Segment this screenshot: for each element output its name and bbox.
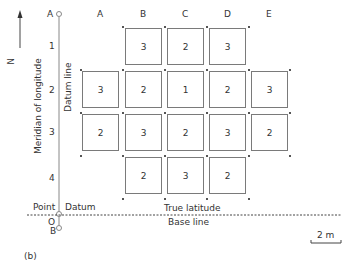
quadrat-e2: 3 — [251, 71, 288, 108]
row-header-3: 3 — [49, 128, 55, 137]
quadrat-b1: 3 — [125, 28, 162, 65]
quadrat-d4: 2 — [209, 157, 246, 194]
point-b-label: B — [50, 227, 56, 236]
datum-line-label: Datum line — [64, 62, 73, 112]
quadrat-d2: 2 — [209, 71, 246, 108]
quadrat-c2: 1 — [167, 71, 204, 108]
quadrat-a3: 2 — [82, 114, 119, 151]
quadrat-c1: 2 — [167, 28, 204, 65]
base-line-label: Base line — [168, 218, 209, 227]
column-header-c: C — [182, 10, 188, 19]
scale-bar-label: 2 m — [317, 231, 334, 240]
column-header-a: A — [97, 10, 103, 19]
true-latitude-label: True latitude — [164, 204, 221, 213]
quadrat-c4: 3 — [167, 157, 204, 194]
quadrat-d1: 3 — [209, 28, 246, 65]
meridian-label: Meridian of longitude — [34, 58, 43, 154]
quadrat-d3: 3 — [209, 114, 246, 151]
quadrat-c3: 2 — [167, 114, 204, 151]
point-label: Point — [33, 203, 55, 212]
column-header-d: D — [224, 10, 231, 19]
figure-caption: (b) — [24, 252, 37, 261]
quadrat-a2: 3 — [82, 71, 119, 108]
column-header-b: B — [140, 10, 146, 19]
point-a-label: A — [47, 10, 53, 19]
column-header-e: E — [266, 10, 272, 19]
row-header-4: 4 — [49, 174, 55, 183]
quadrat-b4: 2 — [125, 157, 162, 194]
quadrat-b3: 3 — [125, 114, 162, 151]
quadrat-b2: 2 — [125, 71, 162, 108]
datum-label: Datum — [65, 203, 95, 212]
quadrat-e3: 2 — [251, 114, 288, 151]
row-header-2: 2 — [49, 86, 55, 95]
row-header-1: 1 — [49, 42, 55, 51]
